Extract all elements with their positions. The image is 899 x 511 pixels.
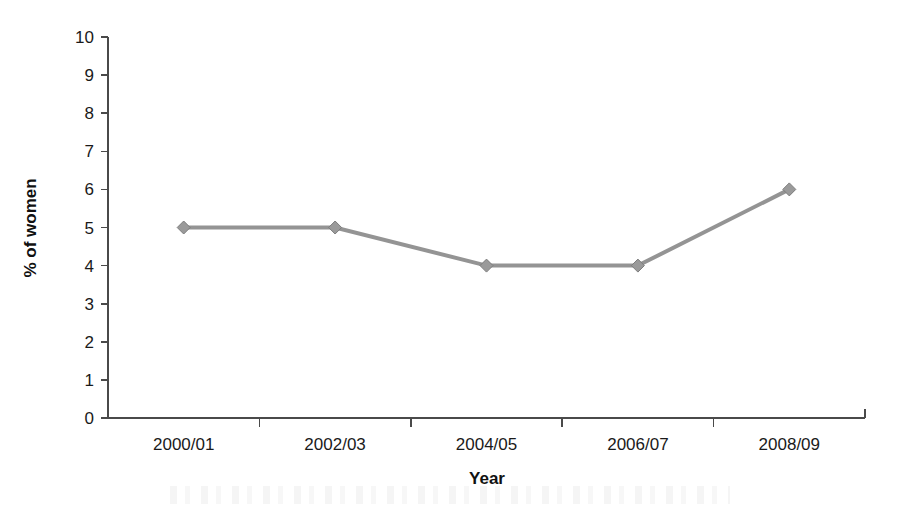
x-axis-group: 2000/012002/032004/052006/072008/09 — [108, 409, 865, 454]
y-axis-tick-labels: 012345678910 — [75, 28, 94, 428]
x-axis-title: Year — [469, 469, 505, 488]
data-point-marker — [631, 259, 644, 272]
y-axis-tick-label: 6 — [85, 180, 94, 199]
data-point-marker — [329, 221, 342, 234]
x-axis-tick-label: 2008/09 — [759, 435, 820, 454]
x-axis-tick-label: 2006/07 — [607, 435, 668, 454]
y-axis-tick-label: 4 — [85, 257, 94, 276]
y-axis-tick-label: 8 — [85, 104, 94, 123]
series-line-percent-of-women — [184, 189, 790, 265]
y-axis-tick-label: 9 — [85, 66, 94, 85]
y-axis-tick-label: 5 — [85, 219, 94, 238]
y-axis-tick-label: 2 — [85, 333, 94, 352]
y-axis-title: % of women — [21, 178, 40, 277]
x-axis-tick-label: 2004/05 — [456, 435, 517, 454]
data-point-marker — [480, 259, 493, 272]
chart-canvas: 012345678910 2000/012002/032004/052006/0… — [0, 0, 899, 511]
y-axis-tick-label: 1 — [85, 371, 94, 390]
y-axis-tick-label: 7 — [85, 142, 94, 161]
x-axis-tick-labels: 2000/012002/032004/052006/072008/09 — [153, 435, 820, 454]
series-group — [177, 183, 796, 272]
y-axis-group: 012345678910 — [75, 28, 108, 428]
y-axis-tick-marks — [101, 37, 108, 418]
y-axis-tick-label: 10 — [75, 28, 94, 47]
y-axis-tick-label: 3 — [85, 295, 94, 314]
x-axis-tick-label: 2000/01 — [153, 435, 214, 454]
x-axis-tick-label: 2002/03 — [304, 435, 365, 454]
y-axis-tick-label: 0 — [85, 409, 94, 428]
data-point-marker — [783, 183, 796, 196]
data-point-marker — [177, 221, 190, 234]
line-chart: 012345678910 2000/012002/032004/052006/0… — [0, 0, 899, 511]
